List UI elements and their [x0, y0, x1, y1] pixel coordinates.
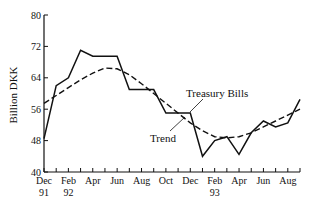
trend-leader-line [170, 117, 185, 131]
x-tick-label-month: Apr [85, 175, 101, 186]
x-tick-label-year: 93 [210, 187, 220, 198]
x-tick-label-month: Oct [159, 175, 174, 186]
y-tick-label: 80 [31, 10, 41, 21]
treasury-bills-leader-line [190, 99, 203, 112]
treasury-bills-label: Treasury Bills [186, 87, 248, 99]
trend-label: Trend [150, 132, 176, 144]
x-tick-label-month: Jun [110, 175, 124, 186]
x-tick-label-month: Aug [279, 175, 296, 186]
x-axis: Dec91Feb92AprJunAugOctDecFeb93AprJunAug [36, 168, 300, 198]
line-chart: 404856647280 Dec91Feb92AprJunAugOctDecFe… [0, 0, 318, 212]
x-tick-label-month: Feb [61, 175, 76, 186]
annotations: Treasury Bills Trend [150, 87, 248, 144]
x-tick-label-month: Dec [182, 175, 199, 186]
trend-line [44, 68, 300, 138]
y-tick-label: 72 [31, 41, 41, 52]
x-tick-label-month: Jun [256, 175, 270, 186]
x-tick-label-month: Feb [207, 175, 222, 186]
x-tick-label-month: Dec [36, 175, 53, 186]
x-tick-label-month: Apr [231, 175, 247, 186]
y-axis-title: Billion DKK [7, 66, 19, 123]
y-axis: 404856647280 [31, 10, 48, 178]
x-tick-label-year: 91 [39, 187, 49, 198]
x-tick-label-month: Aug [133, 175, 150, 186]
y-tick-label: 56 [31, 104, 41, 115]
y-tick-label: 48 [31, 135, 41, 146]
x-tick-label-year: 92 [63, 187, 73, 198]
y-tick-label: 64 [31, 72, 41, 83]
